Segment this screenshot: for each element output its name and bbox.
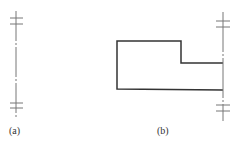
- panel-a-axis: [10, 11, 23, 118]
- panel-b-axis: [216, 12, 230, 121]
- diagram-canvas: [0, 0, 238, 146]
- panel-b-shape: [117, 41, 223, 90]
- panel-b-label: (b): [157, 126, 169, 136]
- panel-a-label: (a): [9, 126, 20, 136]
